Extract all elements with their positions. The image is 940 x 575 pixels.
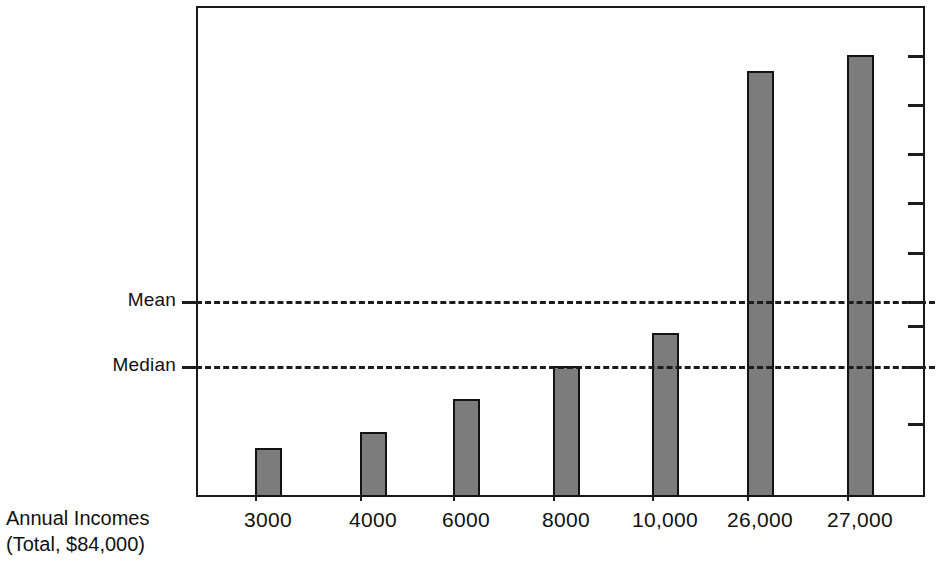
median-line	[196, 366, 935, 369]
right-axis-tick	[908, 301, 925, 304]
x-axis-label-3000: 3000	[244, 508, 292, 532]
x-axis-caption-line2: (Total, $84,000)	[6, 531, 149, 557]
chart-plot-area	[196, 6, 925, 497]
mean-line	[196, 301, 935, 304]
mean-label: Mean	[128, 289, 176, 311]
right-axis-tick	[908, 366, 925, 369]
median-label: Median	[112, 354, 176, 376]
right-axis-tick	[908, 423, 925, 426]
x-axis-label-4000: 4000	[349, 508, 397, 532]
x-axis-label-8000: 8000	[542, 508, 590, 532]
right-axis-tick	[908, 153, 925, 156]
x-axis-caption: Annual Incomes (Total, $84,000)	[6, 505, 149, 557]
x-axis-label-27000: 27,000	[827, 508, 893, 532]
mean-line-stub	[182, 301, 198, 304]
x-axis-label-10000: 10,000	[632, 508, 698, 532]
right-axis-tick	[908, 55, 925, 58]
x-axis-label-26000: 26,000	[727, 508, 793, 532]
right-axis-tick	[908, 202, 925, 205]
right-axis-tick	[908, 104, 925, 107]
median-line-stub	[182, 366, 198, 369]
right-axis-tick	[908, 252, 925, 255]
x-axis-caption-line1: Annual Incomes	[6, 505, 149, 531]
right-axis-tick	[908, 325, 925, 328]
x-axis-label-6000: 6000	[442, 508, 490, 532]
